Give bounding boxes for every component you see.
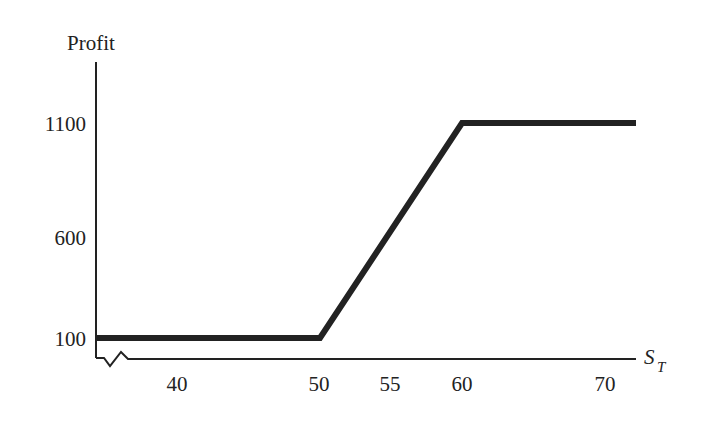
profit-chart: Profit 1100 600 100 40 50 55 60 70 S T xyxy=(0,0,708,423)
x-tick-55: 55 xyxy=(380,372,401,396)
profit-line xyxy=(97,123,636,338)
x-axis-label: S xyxy=(644,345,655,369)
x-axis-label-subscript: T xyxy=(657,359,667,375)
y-tick-600: 600 xyxy=(55,226,87,250)
y-tick-1100: 1100 xyxy=(45,112,86,136)
y-tick-100: 100 xyxy=(55,327,87,351)
x-tick-70: 70 xyxy=(595,372,616,396)
x-tick-60: 60 xyxy=(452,372,473,396)
x-tick-40: 40 xyxy=(167,372,188,396)
x-tick-50: 50 xyxy=(309,372,330,396)
x-axis xyxy=(96,352,636,366)
y-axis-label: Profit xyxy=(67,31,115,55)
